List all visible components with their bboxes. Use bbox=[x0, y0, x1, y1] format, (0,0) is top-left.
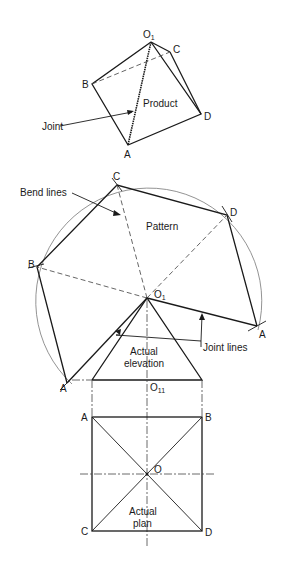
plan-label-line2: plan bbox=[133, 518, 152, 529]
plan-label-c: C bbox=[81, 526, 88, 537]
bend-lines-leader bbox=[72, 193, 118, 214]
bend-line-c bbox=[117, 185, 147, 298]
product-label-o1: O1 bbox=[143, 29, 155, 41]
product-view: O1 C B D A Product Joint bbox=[42, 29, 211, 160]
pattern-label-c: C bbox=[113, 171, 120, 182]
joint-lines-leader-left bbox=[116, 335, 201, 347]
bend-line-b bbox=[37, 267, 147, 298]
product-outline bbox=[92, 42, 201, 145]
elevation-label-o11: O11 bbox=[150, 382, 165, 394]
plan-label-b: B bbox=[205, 412, 212, 423]
plan-label-o: O bbox=[154, 464, 162, 475]
product-title: Product bbox=[143, 98, 178, 109]
joint-lines-label: Joint lines bbox=[203, 342, 247, 353]
product-label-b: B bbox=[82, 79, 89, 90]
joint-lines-arrowhead-right bbox=[199, 313, 205, 320]
pattern-title: Pattern bbox=[146, 221, 178, 232]
pattern-label-d: D bbox=[230, 207, 237, 218]
joint-leader bbox=[60, 112, 132, 126]
plan-centre-point bbox=[146, 473, 149, 476]
product-label-d: D bbox=[204, 111, 211, 122]
elevation-label-line1: Actual bbox=[130, 346, 158, 357]
joint-lines-arrowhead-left bbox=[115, 329, 121, 335]
bend-lines-label: Bend lines bbox=[20, 187, 67, 198]
elevation-label-line2: elevation bbox=[124, 358, 164, 369]
pattern-joint-line-left bbox=[67, 298, 147, 383]
product-joint-line bbox=[128, 42, 151, 145]
plan-label-d: D bbox=[205, 527, 212, 538]
pattern-label-b: B bbox=[28, 259, 35, 270]
product-label-c: C bbox=[173, 44, 180, 55]
bend-lines-arrowhead bbox=[113, 210, 121, 216]
plan-label-line1: Actual bbox=[129, 506, 157, 517]
pyramid-development-diagram: O1 C B D A Product Joint C bbox=[0, 0, 284, 562]
pattern-label-a-right: A bbox=[259, 329, 266, 340]
product-label-a: A bbox=[124, 149, 131, 160]
plan-label-a: A bbox=[81, 412, 88, 423]
pattern-label-o1: O1 bbox=[154, 289, 166, 301]
joint-arrowhead bbox=[127, 110, 134, 115]
joint-label: Joint bbox=[42, 121, 63, 132]
pattern-label-a-left: A bbox=[60, 383, 67, 394]
